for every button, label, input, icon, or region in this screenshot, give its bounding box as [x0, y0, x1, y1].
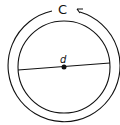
diameter-label: d	[60, 54, 67, 65]
circumference-label: C	[58, 2, 67, 17]
circle-diagram: d C	[0, 0, 120, 125]
center-point	[62, 65, 67, 70]
